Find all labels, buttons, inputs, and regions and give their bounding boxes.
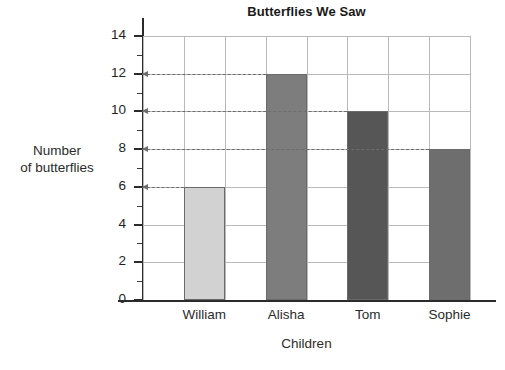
y-axis-tick-label: 0 [100,291,126,306]
annotation-arrowhead-tom [142,108,148,114]
gridline-vertical [470,36,471,300]
annotation-arrowhead-sophie [142,146,148,152]
x-axis-label-sophie: Sophie [405,307,495,322]
y-axis-tick-labels: 02468101214 [100,0,126,370]
annotation-line-sophie [142,149,429,151]
x-axis-line [118,300,496,302]
x-axis-label-tom: Tom [323,307,413,322]
y-axis-title: Number of butterflies [8,142,106,176]
y-axis-tick-label: 4 [100,216,126,231]
chart-title: Butterflies We Saw [143,4,470,19]
bar-alisha [266,74,307,300]
y-axis-tick-label: 2 [100,253,126,268]
y-axis-tick-label: 14 [100,27,126,42]
x-axis-title: Children [143,336,470,351]
x-axis-label-alisha: Alisha [241,307,331,322]
gridline-vertical [307,36,308,300]
x-axis-label-william: William [159,307,249,322]
chart-page: Butterflies We Saw Number of butterflies… [0,0,505,370]
annotation-arrowhead-alisha [142,71,148,77]
bar-william [184,187,225,300]
bar-tom [347,111,388,300]
y-axis-tick-label: 12 [100,65,126,80]
y-axis-tick-label: 6 [100,178,126,193]
y-axis-tick-label: 10 [100,102,126,117]
annotation-arrowhead-william [142,184,148,190]
y-axis-title-line-2: of butterflies [8,159,106,176]
bar-sophie [429,149,470,300]
y-axis-title-line-1: Number [8,142,106,159]
annotation-line-william [142,187,184,189]
annotation-line-tom [142,111,347,113]
annotation-line-alisha [142,74,266,76]
y-axis-tick-label: 8 [100,140,126,155]
gridline-vertical [388,36,389,300]
